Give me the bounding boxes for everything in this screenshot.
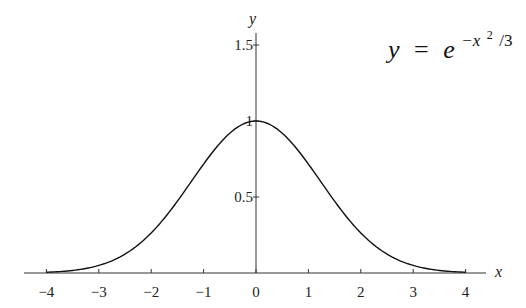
x-tick-label: 0 [252, 284, 260, 300]
x-ticks: −4−3−2−101234 [38, 269, 469, 300]
y-tick-label: 1.5 [234, 37, 253, 53]
y-tick-label: 0.5 [234, 189, 253, 205]
formula-annotation: y = e −x 2 /3 [385, 16, 513, 64]
x-tick-label: −4 [38, 284, 54, 300]
x-axis-label: x [494, 263, 502, 280]
y-axis-label: y [247, 10, 257, 28]
chart: −4−3−2−101234 0.511.5 x y y = e −x 2 /3 [0, 0, 526, 308]
svg-text:y = e −x: y = e −x 2 /3 [385, 16, 513, 64]
x-tick-label: 4 [462, 284, 470, 300]
x-tick-label: 3 [409, 284, 417, 300]
x-tick-label: −3 [91, 284, 107, 300]
x-tick-label: 1 [305, 284, 313, 300]
x-tick-label: −2 [143, 284, 159, 300]
x-tick-label: 2 [357, 284, 365, 300]
x-tick-label: −1 [196, 284, 212, 300]
